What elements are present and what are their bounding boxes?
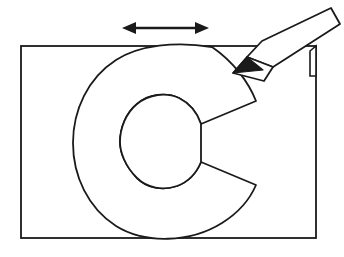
letter-c-tracing-figure bbox=[0, 0, 344, 257]
figure-canvas bbox=[0, 0, 344, 257]
box-corner-sliver bbox=[310, 46, 316, 76]
